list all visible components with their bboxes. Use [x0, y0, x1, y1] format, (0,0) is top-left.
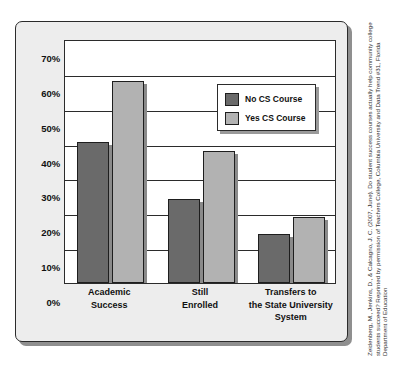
y-axis-tick-label: 70% [20, 53, 60, 64]
legend-item-no-cs-course: No CS Course [225, 91, 302, 107]
bar [77, 142, 109, 283]
legend-swatch-yes-cs-course [225, 112, 239, 125]
legend-label-no-cs-course: No CS Course [245, 94, 302, 104]
y-axis: 0%10%20%30%40%50%60%70% [16, 40, 60, 284]
legend-swatch-no-cs-course [225, 93, 239, 106]
y-axis-tick-label: 60% [20, 87, 60, 98]
x-axis-category-labels: AcademicSuccessStillEnrolledTransfers to… [64, 286, 336, 340]
bar [168, 199, 200, 283]
plot-area: No CS Course Yes CS Course [64, 40, 336, 284]
bar [293, 217, 325, 283]
legend-item-yes-cs-course: Yes CS Course [225, 110, 305, 126]
y-axis-tick-label: 40% [20, 157, 60, 168]
y-axis-tick-label: 20% [20, 227, 60, 238]
legend-label-yes-cs-course: Yes CS Course [245, 113, 305, 123]
chart-panel: 0%10%20%30%40%50%60%70% No CS Course Yes… [15, 21, 348, 342]
bar [112, 81, 144, 283]
y-axis-tick-label: 50% [20, 122, 60, 133]
bar [258, 234, 290, 283]
source-citation: Zeidenberg, M., Jenkins, D., & Calcagno,… [354, 20, 400, 356]
bar [203, 151, 235, 283]
chart-legend: No CS Course Yes CS Course [217, 84, 316, 131]
gridline [65, 76, 335, 77]
source-citation-text: Zeidenberg, M., Jenkins, D., & Calcagno,… [366, 20, 389, 356]
legend-box: No CS Course Yes CS Course [217, 84, 316, 131]
chart-figure: 0%10%20%30%40%50%60%70% No CS Course Yes… [0, 0, 403, 373]
y-axis-tick-label: 10% [20, 262, 60, 273]
x-axis-category-label: Transfers tothe State UniversitySystem [231, 286, 350, 324]
y-axis-tick-label: 30% [20, 192, 60, 203]
